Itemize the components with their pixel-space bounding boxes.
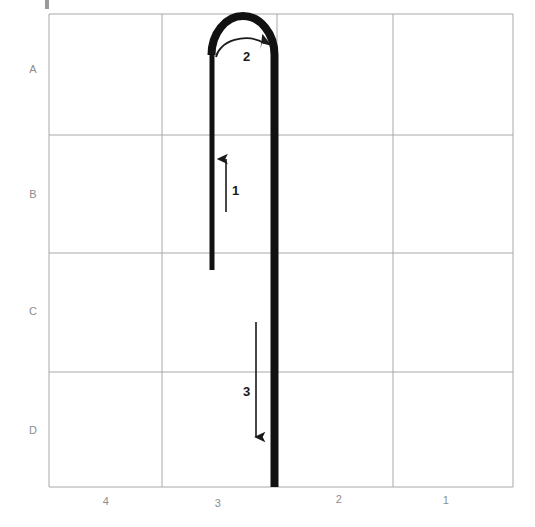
row-label-b: B bbox=[25, 189, 41, 200]
stroke-segment-hook bbox=[212, 16, 275, 487]
direction-arrow-2 bbox=[216, 38, 264, 57]
step-number-3: 3 bbox=[243, 385, 250, 398]
column-label-1: 1 bbox=[438, 495, 454, 506]
step-number-2: 2 bbox=[243, 50, 250, 63]
row-label-a: A bbox=[25, 64, 41, 75]
column-label-3: 3 bbox=[210, 498, 226, 509]
stroke-direction-arrows bbox=[216, 38, 264, 437]
step-number-1: 1 bbox=[232, 184, 239, 197]
grid-lines bbox=[49, 14, 513, 487]
row-label-c: C bbox=[25, 306, 41, 317]
row-label-d: D bbox=[25, 425, 41, 436]
character-stroke bbox=[212, 16, 275, 487]
column-label-4: 4 bbox=[98, 496, 114, 507]
column-label-2: 2 bbox=[331, 494, 347, 505]
diagram-canvas bbox=[0, 0, 535, 527]
stroke-order-diagram: A B C D 4 3 2 1 1 2 3 bbox=[0, 0, 535, 527]
